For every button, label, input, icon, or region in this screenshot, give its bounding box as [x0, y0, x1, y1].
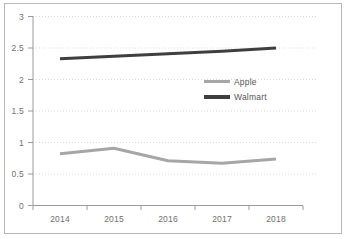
- y-tick-label-2-5: 2.5: [2, 43, 24, 53]
- y-axis-ticks: [28, 17, 33, 206]
- y-tick-label-0-5: 0.5: [2, 169, 24, 179]
- y-tick-label-2: 2: [2, 75, 24, 85]
- line-chart: 3 2.5 2 1.5 1 0.5 0 2014 2015 2016 2017 …: [0, 0, 347, 239]
- x-axis-ticks: [33, 206, 303, 211]
- legend-label-walmart: Walmart: [234, 92, 267, 102]
- y-tick-label-3: 3: [2, 12, 24, 22]
- x-tick-label-2017: 2017: [202, 214, 242, 224]
- y-tick-label-0: 0: [2, 201, 24, 211]
- x-tick-label-2014: 2014: [40, 214, 80, 224]
- x-tick-label-2015: 2015: [94, 214, 134, 224]
- y-tick-label-1-5: 1.5: [2, 106, 24, 116]
- legend-item-walmart[interactable]: Walmart: [204, 90, 290, 103]
- y-tick-label-1: 1: [2, 138, 24, 148]
- plot-area: [0, 0, 347, 239]
- legend-label-apple: Apple: [234, 77, 257, 87]
- legend-swatch-walmart: [204, 95, 230, 99]
- legend-swatch-apple: [204, 80, 230, 83]
- series-line-apple: [60, 148, 276, 163]
- legend-item-apple[interactable]: Apple: [204, 75, 290, 88]
- x-tick-label-2018: 2018: [256, 214, 296, 224]
- x-tick-label-2016: 2016: [148, 214, 188, 224]
- chart-legend: Apple Walmart: [204, 75, 290, 105]
- series-line-walmart: [60, 48, 276, 59]
